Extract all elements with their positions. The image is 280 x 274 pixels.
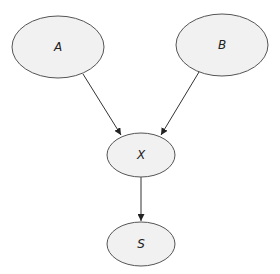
node-s: S: [107, 222, 175, 266]
node-x: X: [107, 133, 175, 177]
edge-a-to-x: [83, 74, 121, 135]
node-x-label: X: [136, 148, 146, 162]
node-a-label: A: [53, 40, 62, 54]
causal-diagram: A B X S: [0, 0, 280, 274]
node-a: A: [12, 16, 104, 78]
edge-b-to-x: [161, 72, 199, 135]
node-b: B: [176, 14, 268, 76]
node-s-label: S: [137, 237, 145, 251]
node-b-label: B: [218, 38, 226, 52]
